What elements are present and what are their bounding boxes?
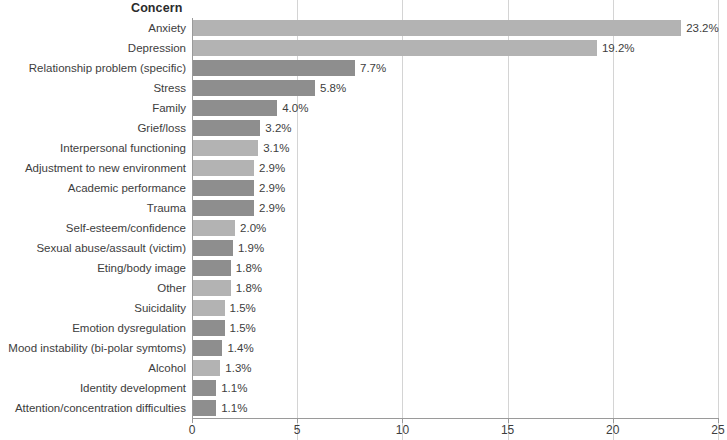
bar <box>193 20 681 36</box>
category-label: Stress <box>153 80 186 96</box>
bar-row: Grief/loss3.2% <box>0 118 727 138</box>
bar-value-label: 19.2% <box>602 40 635 56</box>
bar <box>193 180 254 196</box>
bar <box>193 120 260 136</box>
bar-value-label: 3.1% <box>263 140 289 156</box>
bar-row: Identity development1.1% <box>0 378 727 398</box>
bar-row: Academic performance2.9% <box>0 178 727 198</box>
bar <box>193 280 231 296</box>
bar-row: Attention/concentration difficulties1.1% <box>0 398 727 418</box>
bar-row: Trauma2.9% <box>0 198 727 218</box>
bar <box>193 380 216 396</box>
category-label: Adjustment to new environment <box>25 160 186 176</box>
bar <box>193 300 225 316</box>
category-label: Alcohol <box>148 360 186 376</box>
bar-row: Anxiety23.2% <box>0 18 727 38</box>
bar-value-label: 1.1% <box>221 380 247 396</box>
bar-row: Eting/body image1.8% <box>0 258 727 278</box>
bar-value-label: 1.5% <box>230 300 256 316</box>
bar-value-label: 2.9% <box>259 160 285 176</box>
bar-row: Suicidality1.5% <box>0 298 727 318</box>
bar-row: Sexual abuse/assault (victim)1.9% <box>0 238 727 258</box>
bar-value-label: 2.9% <box>259 180 285 196</box>
category-label: Depression <box>128 40 186 56</box>
bar-value-label: 1.8% <box>236 260 262 276</box>
bar-chart: Concern Anxiety23.2%Depression19.2%Relat… <box>0 0 727 440</box>
bar-row: Alcohol1.3% <box>0 358 727 378</box>
bar-value-label: 5.8% <box>320 80 346 96</box>
bar <box>193 140 258 156</box>
bar-row: Relationship problem (specific)7.7% <box>0 58 727 78</box>
bar-row: Mood instability (bi-polar symtoms)1.4% <box>0 338 727 358</box>
x-tick-label: 5 <box>294 423 301 437</box>
bar-row: Other1.8% <box>0 278 727 298</box>
bar-value-label: 2.9% <box>259 200 285 216</box>
bar-value-label: 7.7% <box>360 60 386 76</box>
category-label: Other <box>157 280 186 296</box>
bar <box>193 240 233 256</box>
x-tick-label: 10 <box>396 423 409 437</box>
bar <box>193 320 225 336</box>
bar-value-label: 1.4% <box>227 340 253 356</box>
category-label: Grief/loss <box>137 120 186 136</box>
category-label: Suicidality <box>134 300 186 316</box>
category-label: Family <box>152 100 186 116</box>
bar-value-label: 1.9% <box>238 240 264 256</box>
category-label: Interpersonal functioning <box>60 140 186 156</box>
x-tick-label: 0 <box>189 423 196 437</box>
bar-row: Emotion dysregulation1.5% <box>0 318 727 338</box>
bar <box>193 400 216 416</box>
category-label: Attention/concentration difficulties <box>15 400 186 416</box>
category-label: Academic performance <box>68 180 186 196</box>
bar-value-label: 1.3% <box>225 360 251 376</box>
bar <box>193 360 220 376</box>
bar <box>193 160 254 176</box>
bar <box>193 260 231 276</box>
bar <box>193 200 254 216</box>
bar-row: Self-esteem/confidence2.0% <box>0 218 727 238</box>
bar-row: Adjustment to new environment2.9% <box>0 158 727 178</box>
category-label: Eting/body image <box>97 260 186 276</box>
category-label: Self-esteem/confidence <box>66 220 186 236</box>
x-tick-label: 15 <box>501 423 514 437</box>
category-label: Identity development <box>80 380 186 396</box>
bar <box>193 60 355 76</box>
bar-value-label: 4.0% <box>282 100 308 116</box>
category-label: Sexual abuse/assault (victim) <box>36 240 186 256</box>
bar-row: Stress5.8% <box>0 78 727 98</box>
bar <box>193 40 597 56</box>
bar-value-label: 1.1% <box>221 400 247 416</box>
bar-value-label: 1.5% <box>230 320 256 336</box>
bar <box>193 80 315 96</box>
bar <box>193 100 277 116</box>
category-label: Mood instability (bi-polar symtoms) <box>8 340 186 356</box>
bar-row: Depression19.2% <box>0 38 727 58</box>
bar-value-label: 1.8% <box>236 280 262 296</box>
x-tick-label: 20 <box>606 423 619 437</box>
bar <box>193 340 222 356</box>
bar-value-label: 23.2% <box>686 20 719 36</box>
category-label: Relationship problem (specific) <box>29 60 186 76</box>
category-label: Emotion dysregulation <box>72 320 186 336</box>
category-label: Anxiety <box>148 20 186 36</box>
bar-row: Family4.0% <box>0 98 727 118</box>
bar-row: Interpersonal functioning3.1% <box>0 138 727 158</box>
x-tick-label: 25 <box>711 423 724 437</box>
bar <box>193 220 235 236</box>
bar-rows: Anxiety23.2%Depression19.2%Relationship … <box>0 0 727 440</box>
bar-value-label: 3.2% <box>265 120 291 136</box>
category-label: Trauma <box>147 200 186 216</box>
bar-value-label: 2.0% <box>240 220 266 236</box>
